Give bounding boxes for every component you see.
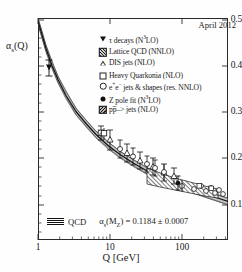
legend-item-ppbar-jets: pp̅–> jets (NLO) bbox=[97, 105, 229, 116]
y-tick-label-0-1: 0.1 bbox=[215, 200, 242, 210]
legend-item-tau-decays: τ decays (N3LO) bbox=[97, 34, 229, 45]
filled-triangle-down-icon bbox=[97, 34, 109, 45]
qcd-band-swatch-icon bbox=[47, 218, 64, 225]
legend-item-z-pole-fit: Z pole fit (N3LO) bbox=[97, 94, 229, 105]
legend-label-ppbar-jets: pp̅–> jets (NLO) bbox=[109, 105, 158, 116]
ppbar-jets-band bbox=[147, 168, 218, 198]
legend-label-tau-decays: τ decays (N3LO) bbox=[109, 32, 158, 46]
filled-circle-icon bbox=[97, 94, 109, 105]
qcd-band-label: QCD bbox=[68, 217, 86, 227]
date-stamp: April 2012 bbox=[199, 20, 236, 30]
x-axis-title: Q [GeV] bbox=[0, 252, 242, 263]
y-axis-title: αs(Q) bbox=[6, 40, 28, 54]
hatched-square-2-icon bbox=[97, 105, 109, 116]
open-triangle-up-icon bbox=[97, 58, 109, 69]
legend: τ decays (N3LO) Lattice QCD (NNLO) DIS j… bbox=[97, 34, 229, 115]
legend-item-dis-jets: DIS jets (NLO) bbox=[97, 58, 229, 69]
bottom-annotation: QCD αs(MZ) = 0.1184 ± 0.0007 bbox=[47, 216, 188, 228]
y-tick-label-0-2: 0.2 bbox=[215, 153, 242, 163]
open-circle-icon bbox=[97, 81, 109, 92]
legend-item-ee-jets-shapes: e+e− jets & shapes (res. NNLO) bbox=[97, 81, 229, 92]
legend-item-lattice-qcd: Lattice QCD (NNLO) bbox=[97, 47, 229, 58]
open-square-icon bbox=[97, 71, 109, 82]
legend-label-lattice-qcd: Lattice QCD (NNLO) bbox=[109, 47, 174, 58]
alphas-mz-value: αs(MZ) = 0.1184 ± 0.0007 bbox=[99, 216, 188, 228]
hatched-square-icon bbox=[97, 47, 109, 58]
alpha-s-running-plot: 0.5 0.4 0.3 0.2 0.1 1 10 100 αs(Q) Q [Ge… bbox=[0, 0, 242, 272]
legend-label-dis-jets: DIS jets (NLO) bbox=[109, 58, 155, 69]
